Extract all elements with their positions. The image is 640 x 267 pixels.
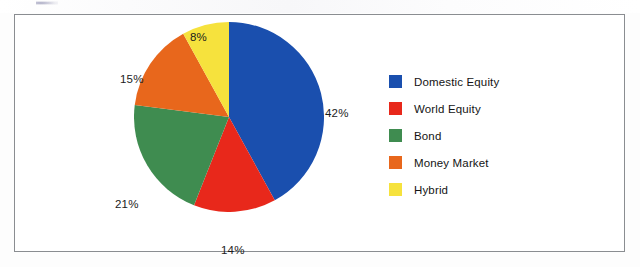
chart-frame: 42% 14% 21% 15% 8% Domestic Equity World… (14, 14, 625, 252)
legend-label: Money Market (414, 157, 489, 169)
legend-swatch-icon (389, 183, 402, 196)
scan-edge-artifact (0, 0, 640, 13)
legend-label: Domestic Equity (414, 76, 499, 88)
pie-slices (134, 22, 324, 212)
legend-label: Hybrid (414, 184, 448, 196)
pie-label-bond: 21% (115, 198, 139, 210)
legend-label: World Equity (414, 103, 481, 115)
legend-swatch-icon (389, 129, 402, 142)
legend-item-bond[interactable]: Bond (389, 122, 599, 149)
legend-item-money-market[interactable]: Money Market (389, 149, 599, 176)
legend-swatch-icon (389, 102, 402, 115)
pie-label-money-market: 15% (120, 73, 144, 85)
legend-label: Bond (414, 130, 441, 142)
chart-legend: Domestic Equity World Equity Bond Money … (389, 68, 599, 203)
pie-label-world-equity: 14% (221, 244, 245, 256)
pie-label-hybrid: 8% (190, 31, 207, 43)
legend-swatch-icon (389, 156, 402, 169)
legend-item-world-equity[interactable]: World Equity (389, 95, 599, 122)
pie-label-domestic-equity: 42% (325, 107, 349, 119)
legend-item-domestic-equity[interactable]: Domestic Equity (389, 68, 599, 95)
legend-item-hybrid[interactable]: Hybrid (389, 176, 599, 203)
pie-graphic (134, 22, 324, 212)
pie-chart: 42% 14% 21% 15% 8% Domestic Equity World… (15, 15, 626, 253)
legend-swatch-icon (389, 75, 402, 88)
pie-svg (134, 22, 324, 212)
